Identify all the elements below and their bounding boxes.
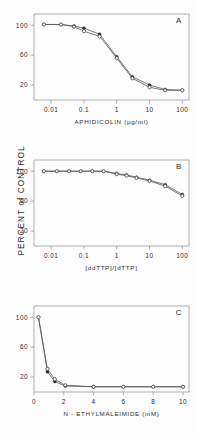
x-tick-label: 10	[145, 106, 153, 113]
data-point-open	[135, 176, 138, 179]
y-tick-label: 100	[16, 22, 28, 29]
series-line-closed-symbols	[44, 24, 182, 90]
figure-panel-stack: PERCENT of CONTROL 20601000.010.1110100A…	[0, 0, 197, 438]
x-axis-title: [ddTTP]/[dTTP]	[85, 264, 137, 271]
data-point-open	[98, 35, 101, 38]
data-point-open	[164, 185, 167, 188]
data-point-open	[42, 23, 45, 26]
x-tick-label: 0	[32, 398, 36, 405]
data-point-open	[102, 170, 105, 173]
data-point-open	[148, 86, 151, 89]
data-point-open	[79, 170, 82, 173]
data-point-open	[37, 316, 40, 319]
panel-letter: A	[176, 16, 182, 25]
data-point-open	[164, 89, 167, 92]
x-tick-label: 8	[151, 398, 155, 405]
x-tick-label: 6	[121, 398, 125, 405]
data-point-open	[82, 30, 85, 33]
plot-frame	[34, 14, 189, 100]
series-line-open-symbols	[44, 24, 182, 90]
data-point-open	[181, 89, 184, 92]
y-tick-label: 20	[20, 227, 28, 234]
x-tick-label: 2	[62, 398, 66, 405]
panel-c-plot: 20601000246810N - ETHYLMALEIMIDE (mM)C	[0, 292, 197, 438]
panel-a-plot: 20601000.010.1110100APHIDICOLIN (µg/ml)A	[0, 0, 197, 146]
x-tick-label: 0.01	[44, 252, 58, 259]
series-line-closed-symbols	[44, 171, 182, 194]
data-point-open	[64, 384, 67, 387]
data-point-open	[122, 385, 125, 388]
x-tick-label: 10	[145, 252, 153, 259]
data-point-open	[59, 23, 62, 26]
x-axis-title: APHIDICOLIN (µg/ml)	[75, 118, 149, 125]
data-point-open	[53, 378, 56, 381]
y-tick-label: 60	[20, 197, 28, 204]
series-line-closed-symbols	[38, 317, 183, 387]
x-tick-label: 0.1	[79, 252, 89, 259]
chart-panel-b: 20601000.010.1110100[ddTTP]/[dTTP]B	[0, 146, 197, 292]
x-tick-label: 1	[115, 106, 119, 113]
data-point-open	[152, 385, 155, 388]
data-point-open	[181, 194, 184, 197]
x-tick-label: 4	[92, 398, 96, 405]
y-tick-label: 100	[16, 314, 28, 321]
x-tick-label: 1	[115, 252, 119, 259]
y-tick-label: 20	[20, 81, 28, 88]
x-tick-label: 100	[176, 106, 188, 113]
data-point-open	[55, 170, 58, 173]
panel-letter: C	[176, 308, 182, 317]
data-point-open	[42, 170, 45, 173]
y-tick-label: 100	[16, 168, 28, 175]
panel-b-plot: 20601000.010.1110100[ddTTP]/[dTTP]B	[0, 146, 197, 292]
data-point-open	[67, 170, 70, 173]
data-point-open	[46, 367, 49, 370]
data-point-open	[125, 174, 128, 177]
x-tick-label: 0.01	[44, 106, 58, 113]
y-tick-label: 60	[20, 51, 28, 58]
y-tick-label: 20	[20, 373, 28, 380]
x-axis-title: N - ETHYLMALEIMIDE (mM)	[63, 410, 159, 417]
chart-panel-c: 20601000246810N - ETHYLMALEIMIDE (mM)C	[0, 292, 197, 438]
plot-frame	[34, 306, 189, 392]
x-tick-label: 100	[176, 252, 188, 259]
x-tick-label: 10	[179, 398, 187, 405]
chart-panel-a: 20601000.010.1110100APHIDICOLIN (µg/ml)A	[0, 0, 197, 146]
series-line-open-symbols	[38, 317, 183, 387]
data-point-open	[115, 173, 118, 176]
data-point-open	[181, 385, 184, 388]
data-point-open	[115, 57, 118, 60]
data-point-open	[72, 25, 75, 28]
data-point-open	[91, 170, 94, 173]
y-tick-label: 60	[20, 343, 28, 350]
x-tick-label: 0.1	[79, 106, 89, 113]
data-point-open	[131, 77, 134, 80]
data-point-open	[92, 385, 95, 388]
panel-letter: B	[176, 162, 182, 171]
data-point-open	[148, 179, 151, 182]
